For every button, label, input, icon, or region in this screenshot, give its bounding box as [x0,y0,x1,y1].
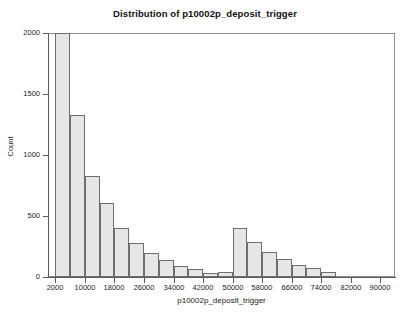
y-tick-mark [43,155,48,156]
chart-title: Distribution of p10002p_deposit_trigger [0,8,410,19]
y-axis-line [48,33,49,278]
histogram-bar [292,265,307,277]
histogram-bar [129,243,144,277]
plot-area [48,33,395,277]
histogram-figure: Distribution of p10002p_deposit_trigger … [0,0,410,321]
histogram-bar [114,228,129,277]
y-tick-label: 2000 [0,28,40,37]
histogram-bar [100,203,115,277]
x-tick-label: 90000 [357,283,403,292]
y-axis-title: Count [6,117,15,177]
histogram-bar [174,266,189,277]
histogram-bar [306,268,321,277]
histogram-bar [277,259,292,277]
histogram-bar [85,176,100,277]
histogram-bar [144,253,159,277]
x-axis-line [48,277,396,278]
y-tick-mark [43,277,48,278]
y-tick-label: 0 [0,272,40,281]
y-tick-mark [43,33,48,34]
y-tick-mark [43,94,48,95]
histogram-bar [247,242,262,277]
histogram-bar [233,228,248,277]
x-axis-title: p10002p_deposit_trigger [48,296,395,305]
y-tick-mark [43,216,48,217]
histogram-bar [188,269,203,277]
histogram-bar [262,252,277,277]
histogram-bar [70,115,85,277]
histogram-bar [55,33,70,277]
histogram-bar [159,260,174,277]
y-tick-label: 1500 [0,89,40,98]
y-tick-label: 500 [0,211,40,220]
